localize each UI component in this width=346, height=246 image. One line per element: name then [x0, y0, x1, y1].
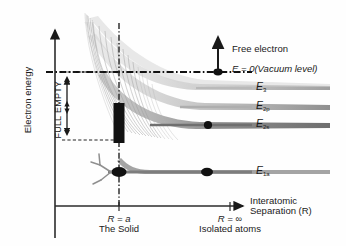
- level-marker-e2s: [204, 121, 212, 129]
- band-fan-e3: [84, 22, 330, 90]
- filled-band-bar: [114, 103, 125, 143]
- e2p-main: E: [256, 99, 263, 111]
- tick-label-r-equals-a: R = aThe Solid: [79, 214, 159, 234]
- figure-canvas: Electron energy FULL EMPTY Free electron…: [0, 0, 346, 246]
- axis-y-label: Electron energy: [23, 50, 33, 150]
- r-inf-sublabel: Isolated atoms: [199, 223, 261, 234]
- r-a-sublabel: The Solid: [99, 223, 139, 234]
- x-axis-label: InteratomicSeparation (R): [250, 196, 312, 216]
- e3-main: E: [256, 80, 263, 92]
- level-label-e2p: E2p: [256, 100, 270, 111]
- tick-label-r-infinity: R = ∞Isolated atoms: [182, 214, 278, 234]
- level-marker-e1a: [201, 168, 213, 176]
- band-fan-group: [84, 13, 330, 174]
- level-label-e1a: E1a: [256, 165, 270, 176]
- vacuum-level-text: E = 0(Vacuum level): [232, 63, 317, 74]
- e1a-main: E: [256, 164, 263, 176]
- level-label-e3: E3: [256, 81, 266, 92]
- level-label-e2s: E2s: [256, 118, 269, 129]
- e2s-main: E: [256, 117, 263, 129]
- atom-bond-glyph: [91, 154, 111, 184]
- vacuum-level-label: E = 0(Vacuum level): [232, 64, 317, 74]
- e1a-sub: 1a: [263, 171, 270, 177]
- axis-x: [55, 202, 243, 211]
- full-empty-label: FULL EMPTY: [54, 72, 63, 148]
- free-electron-label: Free electron: [232, 44, 288, 54]
- full-label: FULL: [53, 116, 63, 139]
- empty-label: EMPTY: [53, 81, 63, 113]
- e2p-sub: 2p: [263, 106, 270, 112]
- e2s-sub: 2s: [263, 124, 269, 130]
- filled-band-bar-bottom-cap: [112, 167, 127, 177]
- e3-sub: 3: [263, 87, 266, 93]
